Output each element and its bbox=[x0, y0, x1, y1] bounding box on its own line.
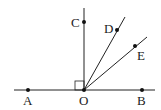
label-c: C bbox=[71, 15, 80, 30]
point-d bbox=[115, 28, 119, 32]
ray-oe bbox=[84, 37, 147, 90]
geometry-diagram: A O B C D E bbox=[0, 0, 161, 110]
label-o: O bbox=[79, 93, 88, 108]
point-a bbox=[26, 88, 30, 92]
point-o bbox=[82, 88, 86, 92]
point-b bbox=[140, 88, 144, 92]
label-d: D bbox=[104, 21, 113, 36]
label-e: E bbox=[137, 48, 145, 63]
label-b: B bbox=[137, 93, 146, 108]
label-a: A bbox=[23, 93, 33, 108]
point-c bbox=[82, 20, 86, 24]
